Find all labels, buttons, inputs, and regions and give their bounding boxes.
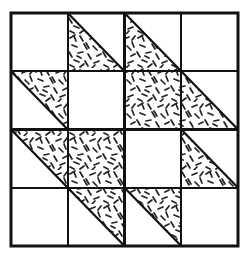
patch-r0c0 (11, 13, 68, 71)
patch-r0c3 (181, 13, 238, 71)
patch-r1c2 (125, 71, 182, 129)
patch-r1c1 (68, 71, 125, 129)
quilt-block-figure (0, 0, 245, 258)
patch-r2c2 (125, 130, 182, 188)
patch-r3c3 (181, 188, 238, 246)
patch-r2c1 (68, 130, 125, 188)
quilt-block-diagram (0, 0, 245, 258)
patch-r3c0 (11, 188, 68, 246)
